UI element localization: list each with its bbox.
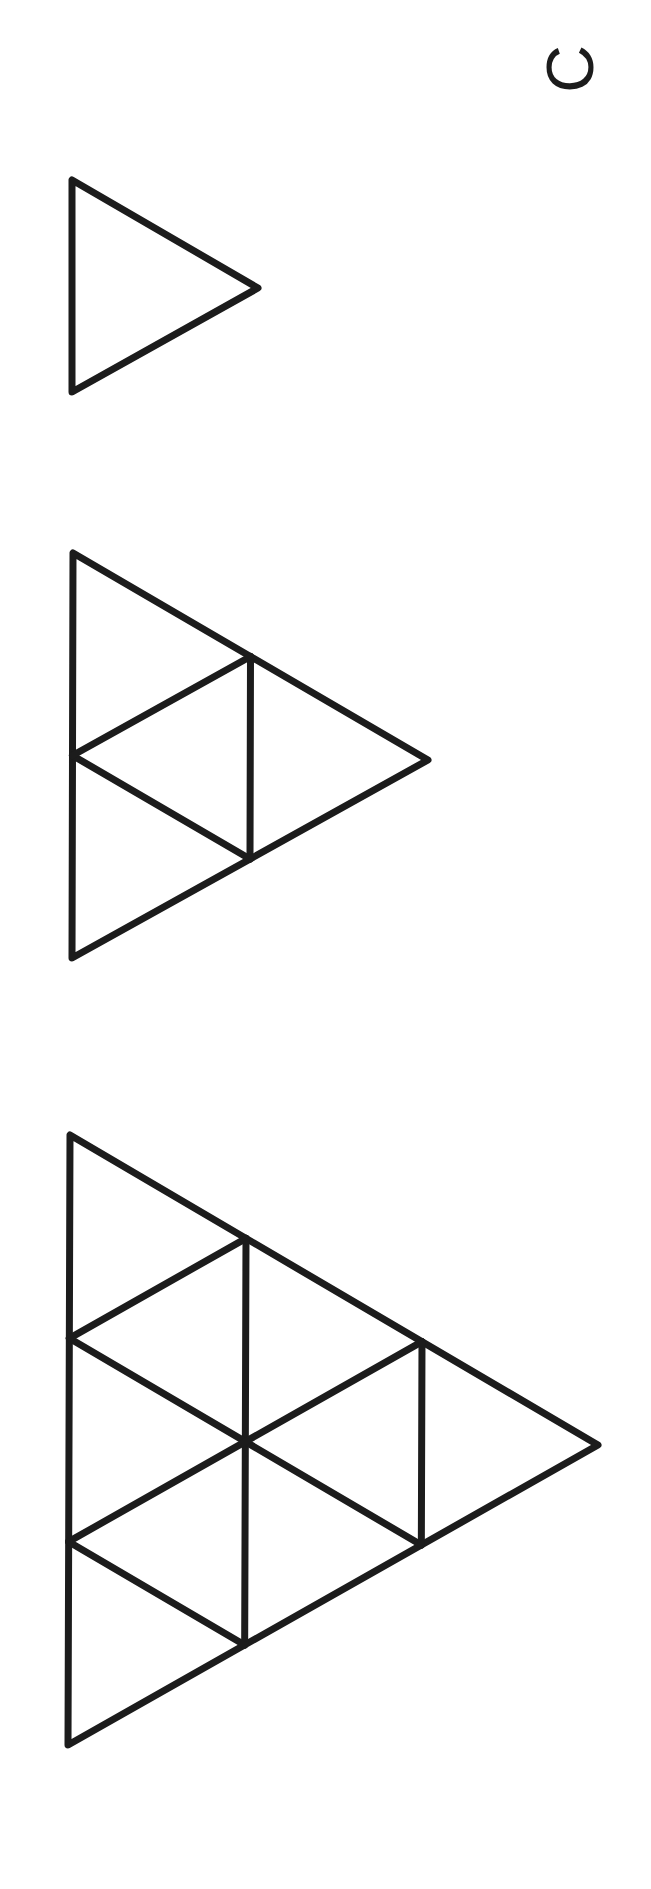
triangle-edge bbox=[73, 756, 251, 860]
stage-3-triangle bbox=[68, 1135, 598, 1745]
triangle-outline bbox=[72, 180, 258, 392]
triangle-edge bbox=[69, 1238, 246, 1338]
triangle-edge bbox=[69, 1542, 245, 1645]
triangle-outline bbox=[68, 1135, 598, 1745]
triangle-diagram bbox=[0, 0, 651, 1889]
triangle-edge bbox=[73, 657, 251, 756]
stage-1-triangle bbox=[72, 180, 258, 392]
triangle-edge bbox=[421, 1342, 422, 1545]
stage-2-triangle bbox=[72, 553, 428, 958]
triangle-edge bbox=[250, 657, 251, 860]
